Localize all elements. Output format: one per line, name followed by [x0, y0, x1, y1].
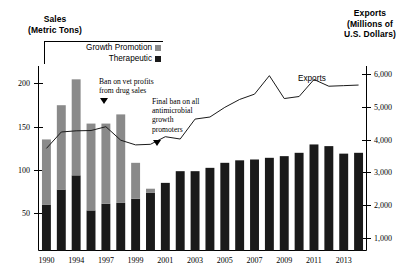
bar-therapeutic: [295, 153, 304, 251]
left-tick-200: 200: [4, 79, 30, 88]
bar-therapeutic: [265, 158, 274, 251]
x-tick-label-2009: 2009: [269, 256, 299, 265]
x-tick-label-1997: 1997: [91, 256, 121, 265]
bar-growth-promotion: [87, 124, 96, 211]
exports-series-label: Exports: [298, 74, 326, 83]
bar-therapeutic: [205, 168, 214, 251]
annotation-arrow-final-ban-amgp: [153, 140, 161, 146]
bar-therapeutic: [87, 210, 96, 250]
bar-therapeutic: [131, 199, 140, 251]
bar-growth-promotion: [57, 105, 66, 189]
x-tick-label-2007: 2007: [240, 256, 270, 265]
right-tick-2000: 2,000: [374, 201, 408, 210]
left-tick-100: 100: [4, 166, 30, 175]
bar-therapeutic: [354, 153, 363, 251]
annotation-final-ban-amgp: Final ban on all antimicrobial growth pr…: [152, 97, 199, 134]
x-tick-label-2003: 2003: [180, 256, 210, 265]
bar-therapeutic: [161, 183, 170, 251]
bar-therapeutic: [116, 203, 125, 251]
bar-therapeutic: [280, 156, 289, 250]
bar-therapeutic: [176, 171, 185, 250]
x-tick-label-1994: 1994: [61, 256, 91, 265]
bar-therapeutic: [339, 154, 348, 251]
bar-growth-promotion: [131, 163, 140, 199]
bar-therapeutic: [72, 175, 81, 250]
right-tick-4000: 4,000: [374, 136, 408, 145]
bar-therapeutic: [146, 193, 155, 251]
bar-therapeutic: [57, 190, 66, 251]
bar-growth-promotion: [72, 79, 81, 175]
bar-therapeutic: [235, 160, 244, 250]
bar-therapeutic: [101, 204, 110, 251]
x-tick-label-2005: 2005: [210, 256, 240, 265]
bar-therapeutic: [191, 171, 200, 250]
right-tick-3000: 3,000: [374, 168, 408, 177]
bar-growth-promotion: [42, 139, 51, 204]
left-tick-50: 50: [4, 209, 30, 218]
x-tick-label-2013: 2013: [329, 256, 359, 265]
bar-growth-promotion: [116, 114, 125, 203]
annotation-ban-vet-profits: Ban on vet profits from drug sales: [99, 77, 154, 95]
bar-therapeutic: [220, 163, 229, 251]
x-tick-label-1999: 1999: [121, 256, 151, 265]
chart-root: Sales (Metric Tons) Exports (Millions of…: [0, 0, 411, 279]
right-tick-5000: 5,000: [374, 103, 408, 112]
x-tick-label-2011: 2011: [299, 256, 329, 265]
bar-growth-promotion: [146, 189, 155, 193]
right-tick-6000: 6,000: [374, 70, 408, 79]
bar-growth-promotion: [101, 124, 110, 204]
bar-therapeutic: [324, 146, 333, 250]
plot-svg: [0, 0, 411, 279]
bar-therapeutic: [310, 144, 319, 250]
bars-layer: [42, 79, 363, 250]
right-tick-1000: 1,000: [374, 234, 408, 243]
x-tick-label-2001: 2001: [150, 256, 180, 265]
x-tick-label-1990: 1990: [31, 256, 61, 265]
bar-therapeutic: [42, 205, 51, 251]
left-tick-150: 150: [4, 123, 30, 132]
annotation-arrow-ban-vet-profits: [100, 98, 108, 104]
bar-therapeutic: [250, 159, 259, 250]
